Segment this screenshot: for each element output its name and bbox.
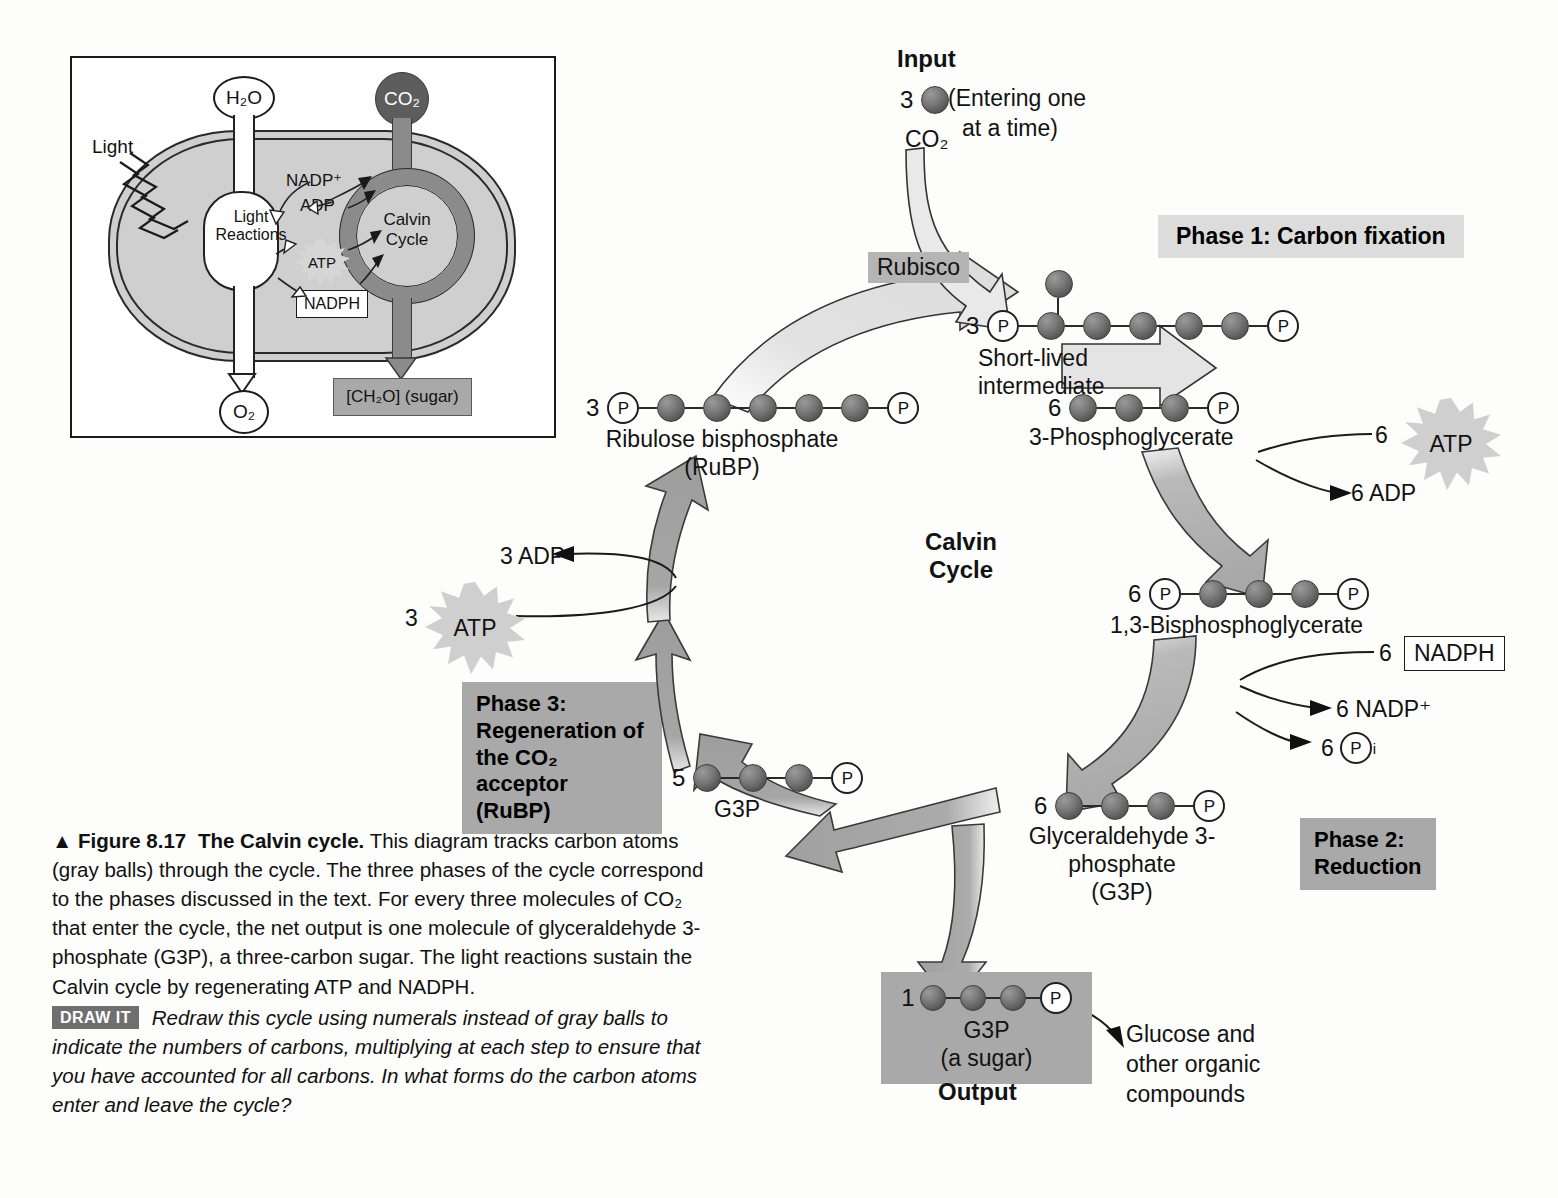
carbon-ball-icon xyxy=(1083,312,1111,340)
carbon-ball-icon xyxy=(960,985,986,1011)
glucose-note: Glucose and other organic compounds xyxy=(1126,1020,1260,1110)
carbon-ball-icon xyxy=(1147,792,1175,820)
carbon-ball-icon xyxy=(1101,792,1129,820)
g3p-six-name-line2: (G3P) xyxy=(982,878,1262,906)
bpg-name: 1,3-Bisphosphoglycerate xyxy=(1110,612,1363,639)
carbon-ball-icon xyxy=(703,394,731,422)
carbon-ball-icon xyxy=(1129,312,1157,340)
adp-phase1-line xyxy=(1256,460,1338,493)
rubp-name-line1: Ribulose bisphosphate xyxy=(596,425,848,453)
phosphate-icon: P xyxy=(1337,578,1369,610)
rubp-count: 3 xyxy=(586,394,599,422)
nadp-plus-line xyxy=(1240,686,1316,708)
carbon-ball-icon xyxy=(1037,312,1065,340)
output-heading: Output xyxy=(938,1078,1017,1106)
g3p-one-name: G3P (a sugar) xyxy=(940,1016,1032,1072)
g3p-six-name-line1: Glyceraldehyde 3-phosphate xyxy=(982,822,1262,878)
nadp-plus-arrowhead xyxy=(1310,700,1332,716)
rubp-name: Ribulose bisphosphate (RuBP) xyxy=(596,425,848,481)
bpg-count: 6 xyxy=(1128,580,1141,608)
output-box: 1 P G3P (a sugar) xyxy=(881,972,1092,1084)
carbon-ball-icon xyxy=(1115,394,1143,422)
g3p-five-count: 5 xyxy=(672,764,685,792)
pi-out: 6 P i xyxy=(1321,732,1376,764)
carbon-ball-icon xyxy=(1055,792,1083,820)
rubisco-enzyme-label: Rubisco xyxy=(868,252,969,283)
carbon-ball-icon xyxy=(657,394,685,422)
carbon-ball-icon xyxy=(1199,580,1227,608)
figure-number: ▲ Figure 8.17 xyxy=(52,829,186,852)
nadph-box: NADPH xyxy=(1404,636,1505,671)
carbon-ball-icon xyxy=(739,764,767,792)
glucose-note-line2: other organic xyxy=(1126,1050,1260,1080)
g3p-one-name-line2: (a sugar) xyxy=(940,1044,1032,1072)
intermediate-name-line1: Short-lived xyxy=(978,344,1105,372)
carbon-ball-icon xyxy=(841,394,869,422)
pga-molecule: 6 P xyxy=(1048,392,1239,424)
phosphate-icon: P xyxy=(887,392,919,424)
nadph-line xyxy=(1240,652,1374,680)
g3p-one-name-line1: G3P xyxy=(940,1016,1032,1044)
bpg-to-g3p-arrow xyxy=(1066,636,1196,812)
carbon-ball-icon xyxy=(1221,312,1249,340)
g3p-six-count: 6 xyxy=(1034,792,1047,820)
glucose-arrowhead xyxy=(1106,1026,1124,1048)
g3p-five-molecule: 5 P xyxy=(672,762,863,794)
figure-title: The Calvin cycle. xyxy=(198,829,364,852)
g3p-one-count: 1 xyxy=(901,984,914,1012)
glucose-note-line3: compounds xyxy=(1126,1080,1260,1110)
atp-phase1-line xyxy=(1258,434,1372,452)
draw-it-text: Redraw this cycle using numerals instead… xyxy=(52,1006,700,1116)
draw-it-prompt: DRAW IT Redraw this cycle using numerals… xyxy=(52,1003,712,1119)
glucose-note-line1: Glucose and xyxy=(1126,1020,1260,1050)
figure-caption-text: This diagram tracks carbon atoms (gray b… xyxy=(52,829,703,998)
figure-caption: ▲ Figure 8.17 The Calvin cycle. This dia… xyxy=(52,826,712,1001)
pi-out-count: 6 xyxy=(1321,735,1334,762)
g3p-one-molecule: 1 P xyxy=(901,982,1071,1014)
pi-out-subscript: i xyxy=(1373,740,1376,757)
phosphate-icon: P xyxy=(987,310,1019,342)
phosphate-icon: P xyxy=(607,392,639,424)
carbon-ball-icon xyxy=(920,985,946,1011)
phosphate-icon: P xyxy=(1040,982,1072,1014)
carbon-ball-icon xyxy=(1291,580,1319,608)
g3p-five-name: G3P xyxy=(714,796,760,823)
intermediate-count: 3 xyxy=(966,312,979,340)
pga-to-bpg-arrow xyxy=(1142,448,1268,598)
phosphate-icon: P xyxy=(1193,790,1225,822)
carbon-ball-icon xyxy=(1161,394,1189,422)
phosphate-icon: P xyxy=(831,762,863,794)
phosphate-icon: P xyxy=(1149,578,1181,610)
adp-phase1-arrowhead xyxy=(1330,485,1352,501)
nadph-label: NADPH xyxy=(1414,640,1495,666)
carbon-ball-icon xyxy=(1000,985,1026,1011)
adp-phase3-label: 3 ADP xyxy=(500,543,565,570)
bpg-molecule: 6 P P xyxy=(1128,578,1369,610)
carbon-ball-icon xyxy=(1175,312,1203,340)
phosphate-icon: P xyxy=(1207,392,1239,424)
phosphate-icon: P xyxy=(1267,310,1299,342)
nadp-plus-out-label: 6 NADP⁺ xyxy=(1336,696,1431,723)
atp-phase1-count: 6 xyxy=(1375,422,1388,449)
pga-name: 3-Phosphoglycerate xyxy=(1029,424,1234,451)
carbon-ball-icon xyxy=(749,394,777,422)
carbon-ball-icon xyxy=(785,764,813,792)
rubp-molecule: 3 P P xyxy=(586,392,919,424)
draw-it-tag: DRAW IT xyxy=(52,1006,139,1029)
g3p-six-name: Glyceraldehyde 3-phosphate (G3P) xyxy=(982,822,1262,906)
pga-count: 6 xyxy=(1048,394,1061,422)
carbon-ball-icon xyxy=(1069,394,1097,422)
rubp-name-line2: (RuBP) xyxy=(596,453,848,481)
atp-phase1-label: ATP xyxy=(1429,431,1472,458)
atp-phase3-count: 3 xyxy=(405,605,418,632)
phosphate-icon: P xyxy=(1340,732,1372,764)
intermediate-molecule: 3 P P xyxy=(966,310,1299,342)
regeneration-arrow-2 xyxy=(636,612,690,772)
g3p-six-molecule: 6 P xyxy=(1034,790,1225,822)
adp-phase1-label: 6 ADP xyxy=(1351,480,1416,507)
carbon-ball-icon xyxy=(795,394,823,422)
carbon-ball-icon xyxy=(693,764,721,792)
atp-phase3-label: ATP xyxy=(453,615,496,642)
pi-line xyxy=(1236,712,1296,742)
carbon-ball-icon xyxy=(1245,580,1273,608)
